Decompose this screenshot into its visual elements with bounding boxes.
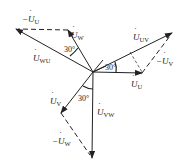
helper-line [130,52,142,72]
angle-label-1: 30° [64,46,75,54]
label-neg-W: −UW [52,137,71,148]
phasor-V [61,72,93,113]
label-V: UV [50,97,61,108]
phasor-VW [92,72,93,158]
label-U: UU [131,80,142,91]
label-VW: UVW [97,108,114,119]
angle-arc-V-VW [83,86,93,89]
label-neg-U: −UU [22,15,39,26]
phasor-neg-W [61,113,90,155]
label-W: UW [71,31,84,42]
label-WU: UWU [33,54,50,65]
phasor-neg-U [18,29,68,30]
angle-label-3: 30° [78,95,89,103]
label-neg-V: −UV [156,57,173,68]
angle-label-2: 30° [105,64,116,72]
label-UV: UUV [133,33,149,44]
